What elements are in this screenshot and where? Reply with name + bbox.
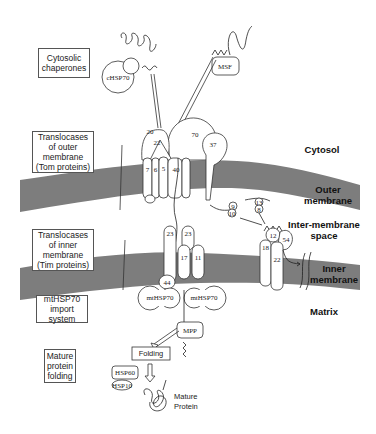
intermembrane-space-region-label: Inter-membrane space (284, 219, 364, 241)
outer-membrane-region-label: Outer membrane (298, 184, 358, 206)
hsp10-label: HSP10 (112, 382, 132, 390)
chsp70-arrow (151, 74, 161, 128)
tim22 (271, 242, 283, 290)
mpp-to-folding-arrow (154, 328, 179, 347)
tim12-label: 12 (270, 232, 278, 240)
tom37-label: 37 (210, 141, 218, 149)
tom7-label: 7 (146, 166, 150, 174)
tom70-label: 70 (192, 131, 200, 139)
inner-membrane-region-label: Inner membrane (306, 263, 362, 285)
cytosolic-chaperones-label: Cytosolic chaperones (38, 48, 90, 78)
tom6-label: 6 (154, 166, 158, 174)
tim11 (192, 245, 204, 279)
mpp-label: MPP (183, 327, 197, 335)
tim11-label: 11 (195, 254, 202, 262)
mature-protein-fold (144, 380, 166, 411)
tom22-label: 22 (154, 139, 162, 147)
tom-label: Translocases of outer membrane (Tom prot… (32, 131, 94, 173)
mthsp70-left-label: mtHSP70 (146, 294, 174, 302)
tim23-right-label: 23 (185, 230, 193, 238)
precursor-presequence-1 (142, 66, 157, 70)
mature-protein-label-line2: Protein (174, 402, 198, 411)
tom5-label: 5 (162, 165, 166, 173)
mature-folding-label: Mature protein folding (44, 349, 76, 383)
mthsp70-right-label: mtHSP70 (190, 294, 218, 302)
tom6 (152, 158, 159, 198)
mthsp70-right: mtHSP70 (184, 286, 226, 310)
mitochondrial-import-diagram: cHSP70 MSF 70 20 22 7 6 5 40 37 (0, 0, 376, 434)
tim18-label: 18 (262, 244, 270, 252)
tom20-label: 20 (147, 128, 155, 136)
mthsp70-system-label: mtHSP70 import system (36, 295, 88, 323)
tom40-label: 40 (173, 166, 181, 174)
tim-label: Translocases of inner membrane (Tim prot… (32, 229, 94, 271)
cytosol-region-label: Cytosol (300, 144, 344, 155)
tim17 (178, 245, 190, 279)
precursor-chain-1 (121, 33, 156, 51)
mthsp70-left: mtHSP70 (138, 286, 180, 310)
hsp60-label: HSP60 (115, 369, 135, 377)
tim8-label: 8 (257, 206, 261, 214)
tim22-label: 22 (274, 256, 282, 264)
precursor-chain-2 (228, 26, 252, 55)
mature-protein-label-line1: Mature (174, 392, 197, 401)
folding-label: Folding (139, 349, 164, 358)
chsp70-label: cHSP70 (107, 74, 130, 82)
tim10-label: 10 (229, 210, 237, 218)
tim44-label: 44 (164, 279, 172, 287)
tom7 (143, 158, 152, 198)
matrix-region-label: Matrix (304, 306, 344, 317)
tim23-left-label: 23 (167, 230, 175, 238)
folding-down-arrow (145, 364, 155, 382)
msf-label: MSF (218, 63, 232, 71)
tom5 (159, 157, 168, 198)
tim17-label: 17 (181, 254, 189, 262)
